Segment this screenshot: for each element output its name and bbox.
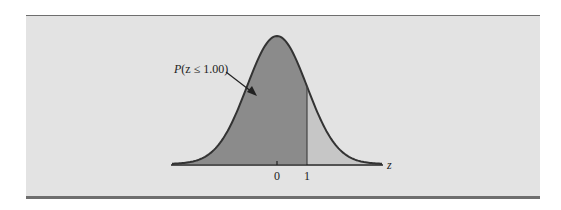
tick-label-0: 0 <box>274 169 280 183</box>
axis-label-z: z <box>386 158 392 172</box>
tick-label-1: 1 <box>304 169 310 183</box>
normal-distribution-chart: z 0 1 P(z ≤ 1.00) <box>0 0 561 210</box>
annotation-rest: (z ≤ 1.00) <box>181 62 228 76</box>
unshaded-area-right-of-z1 <box>307 86 382 164</box>
annotation-label: P(z ≤ 1.00) <box>173 62 228 76</box>
shaded-area-left-of-z1 <box>172 36 307 164</box>
